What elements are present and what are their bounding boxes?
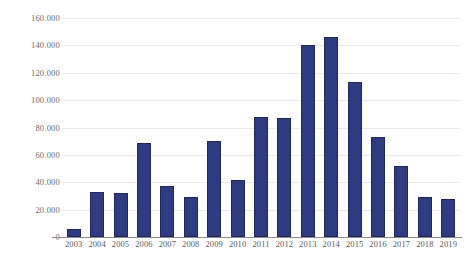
bar-2010[interactable] xyxy=(231,180,245,237)
x-axis-tick-label: 2003 xyxy=(65,240,82,249)
bar-2011[interactable] xyxy=(254,117,268,237)
x-axis-tick-label: 2008 xyxy=(182,240,199,249)
y-axis: 020.00040.00060.00080.000100.000120.0001… xyxy=(0,0,60,268)
plot-area xyxy=(62,18,460,237)
y-axis-tick-label: 100.000 xyxy=(2,96,60,105)
bar-slot xyxy=(254,18,268,237)
x-axis-tick-label: 2019 xyxy=(440,240,457,249)
bar-slot xyxy=(324,18,338,237)
x-axis-tick-label: 2009 xyxy=(205,240,222,249)
bar-slot xyxy=(90,18,104,237)
x-axis-tick-label: 2007 xyxy=(159,240,176,249)
bar-2017[interactable] xyxy=(394,166,408,237)
x-axis-tick-label: 2006 xyxy=(135,240,152,249)
x-axis-tick-label: 2017 xyxy=(393,240,410,249)
bar-2014[interactable] xyxy=(324,37,338,237)
y-axis-tick-label: 20.000 xyxy=(2,205,60,214)
bar-chart: 020.00040.00060.00080.000100.000120.0001… xyxy=(0,0,470,268)
bar-2013[interactable] xyxy=(301,45,315,237)
x-axis-line xyxy=(52,237,462,238)
x-axis-tick-label: 2015 xyxy=(346,240,363,249)
y-axis-tick-label: 120.000 xyxy=(2,69,60,78)
bar-slot xyxy=(418,18,432,237)
x-axis-tick-label: 2004 xyxy=(88,240,105,249)
bar-2005[interactable] xyxy=(114,193,128,237)
bar-slot xyxy=(348,18,362,237)
bar-slot xyxy=(114,18,128,237)
x-axis-tick-label: 2010 xyxy=(229,240,246,249)
bar-2012[interactable] xyxy=(277,118,291,237)
bar-slot xyxy=(231,18,245,237)
y-axis-tick-label: 140.000 xyxy=(2,41,60,50)
bar-2004[interactable] xyxy=(90,192,104,237)
bar-2018[interactable] xyxy=(418,197,432,237)
x-axis-tick-label: 2016 xyxy=(369,240,386,249)
bar-slot xyxy=(394,18,408,237)
bar-2015[interactable] xyxy=(348,82,362,237)
bar-slot xyxy=(67,18,81,237)
bar-2016[interactable] xyxy=(371,137,385,237)
x-axis-tick-label: 2013 xyxy=(299,240,316,249)
x-axis-tick-label: 2005 xyxy=(112,240,129,249)
bar-2006[interactable] xyxy=(137,143,151,237)
x-axis-tick-label: 2012 xyxy=(276,240,293,249)
x-axis-tick-label: 2018 xyxy=(416,240,433,249)
y-axis-tick-label: 40.000 xyxy=(2,178,60,187)
bar-slot xyxy=(371,18,385,237)
x-axis: 2003200420052006200720082009201020112012… xyxy=(62,240,460,260)
bar-2007[interactable] xyxy=(160,186,174,237)
bar-2019[interactable] xyxy=(441,199,455,237)
bar-slot xyxy=(301,18,315,237)
x-axis-tick-label: 2011 xyxy=(252,240,269,249)
y-axis-tick-label: 60.000 xyxy=(2,151,60,160)
y-axis-tick-label: 80.000 xyxy=(2,123,60,132)
y-axis-tick-label: 160.000 xyxy=(2,14,60,23)
bar-slot xyxy=(207,18,221,237)
x-axis-tick-label: 2014 xyxy=(323,240,340,249)
bar-slot xyxy=(137,18,151,237)
bar-2009[interactable] xyxy=(207,141,221,237)
bar-slot xyxy=(441,18,455,237)
bar-slot xyxy=(160,18,174,237)
bar-slot xyxy=(184,18,198,237)
bar-slot xyxy=(277,18,291,237)
bar-2008[interactable] xyxy=(184,197,198,237)
bar-2003[interactable] xyxy=(67,229,81,237)
